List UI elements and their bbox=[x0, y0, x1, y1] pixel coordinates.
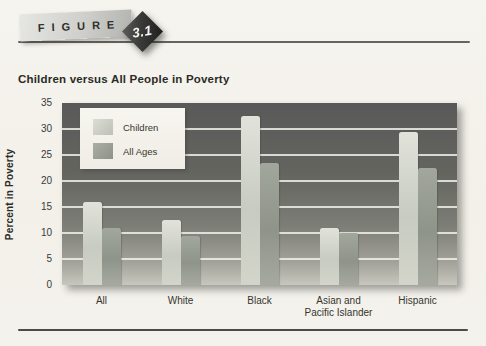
y-tick-label-5: 5 bbox=[46, 254, 52, 264]
header-rule bbox=[18, 41, 470, 43]
y-tick-label-35: 35 bbox=[41, 98, 52, 108]
bar-children-asian-and-pacific-islander bbox=[320, 228, 339, 285]
y-tick-label-30: 30 bbox=[41, 124, 52, 134]
y-tick-label-10: 10 bbox=[41, 228, 52, 238]
x-label-white: White bbox=[141, 295, 220, 319]
figure-badge: FIGURE bbox=[19, 10, 132, 42]
bar-all-ages-all bbox=[102, 228, 121, 285]
bar-all-ages-hispanic bbox=[418, 168, 437, 285]
y-axis-ticks: 05101520253035 bbox=[26, 103, 54, 285]
chart-title: Children versus All People in Poverty bbox=[18, 73, 229, 85]
legend-entry-children: Children bbox=[80, 115, 185, 139]
x-label-black: Black bbox=[220, 295, 299, 319]
y-tick-label-0: 0 bbox=[46, 280, 52, 290]
x-axis-labels: AllWhiteBlackAsian and Pacific IslanderH… bbox=[62, 295, 457, 319]
legend-swatch-children bbox=[93, 119, 113, 135]
bar-all-ages-white bbox=[181, 236, 200, 285]
bar-all-ages-asian-and-pacific-islander bbox=[339, 233, 358, 285]
legend-swatch-all-ages bbox=[93, 143, 113, 159]
bar-group-black bbox=[220, 103, 299, 285]
bar-children-white bbox=[162, 220, 181, 285]
figure-label: FIGURE bbox=[31, 18, 122, 34]
legend-label-all-ages: All Ages bbox=[123, 146, 157, 157]
x-label-hispanic: Hispanic bbox=[378, 295, 457, 319]
legend-entry-all-ages: All Ages bbox=[80, 139, 185, 163]
y-tick-label-20: 20 bbox=[41, 176, 52, 186]
diamond-shape: 3.1 bbox=[122, 11, 163, 52]
y-tick-label-15: 15 bbox=[41, 202, 52, 212]
figure-number: 3.1 bbox=[131, 23, 153, 41]
bar-all-ages-black bbox=[260, 163, 279, 285]
legend-label-children: Children bbox=[123, 122, 158, 133]
legend: ChildrenAll Ages bbox=[80, 108, 185, 169]
figure-bottom-rule bbox=[18, 329, 468, 331]
y-axis-title-text: Percent in Poverty bbox=[5, 148, 16, 239]
x-label-all: All bbox=[62, 295, 141, 319]
bar-group-hispanic bbox=[378, 103, 457, 285]
figure-number-diamond: 3.1 bbox=[122, 11, 163, 52]
bar-children-all bbox=[83, 202, 102, 285]
bar-group-asian-and-pacific-islander bbox=[299, 103, 378, 285]
bar-children-black bbox=[241, 116, 260, 285]
x-label-asian-and-pacific-islander: Asian and Pacific Islander bbox=[299, 295, 378, 319]
plot-area: ChildrenAll Ages bbox=[62, 103, 457, 285]
bar-children-hispanic bbox=[399, 132, 418, 285]
y-tick-label-25: 25 bbox=[41, 150, 52, 160]
y-axis-title: Percent in Poverty bbox=[2, 103, 18, 285]
